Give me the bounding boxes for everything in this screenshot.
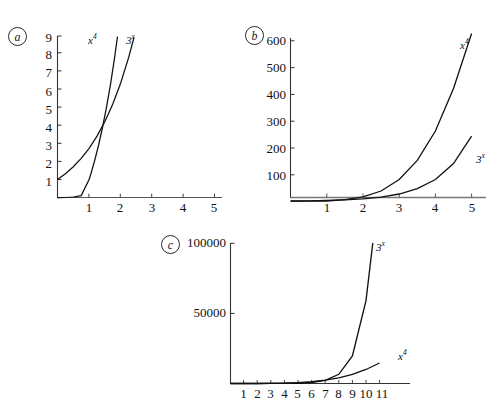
panel-c-label-x4: x4: [398, 349, 407, 362]
panel-c-xtick-1: 1: [236, 387, 251, 400]
panel-a-ytick-2: 2: [34, 157, 52, 170]
panel-a-ytick-9: 9: [34, 31, 52, 44]
panel-a-ytick-3: 3: [34, 139, 52, 152]
panel-b-ytick-600: 600: [244, 34, 286, 47]
panel-b-ytick-500: 500: [244, 61, 286, 74]
panel-b-ytick-400: 400: [244, 88, 286, 101]
panel-a-xtick-3: 3: [142, 201, 162, 214]
panel-c-xtick-6: 6: [304, 387, 319, 400]
panel-b-ytick-200: 200: [244, 142, 286, 155]
panel-a-xtick-1: 1: [79, 201, 99, 214]
panel-c-ytick-50000: 50000: [158, 306, 226, 319]
panel-c-curve-x4: [231, 363, 380, 384]
panel-c-label-3x-exp: x: [382, 239, 385, 248]
panel-b-label-3x-exp: x: [482, 151, 485, 160]
panel-b-xtick-2: 2: [353, 201, 373, 214]
panel-a-label-x4-exp: 4: [93, 32, 97, 41]
panel-b-label-3x: 3x: [476, 152, 485, 165]
panel-a-xtick-4: 4: [173, 201, 193, 214]
panel-c-xtick-8: 8: [331, 387, 346, 400]
panel-a-xtick-2: 2: [110, 201, 130, 214]
panel-c-curve-3x: [231, 243, 373, 384]
panel-b-xtick-1: 1: [317, 201, 337, 214]
panel-c-label-3x: 3x: [376, 240, 385, 253]
panel-a-label-3x-exp: x: [132, 32, 135, 41]
panel-c-ytick-100000: 100000: [158, 236, 226, 249]
panel-a: a: [0, 0, 240, 215]
panel-b-label-x4-exp: 4: [465, 37, 469, 46]
panel-b-xtick-5: 5: [462, 201, 482, 214]
panel-c-xtick-5: 5: [290, 387, 305, 400]
panel-c-xtick-11: 11: [372, 387, 392, 400]
panel-c: c: [140, 225, 504, 416]
panel-b: b: [240, 0, 504, 215]
panel-a-ytick-6: 6: [34, 85, 52, 98]
panel-b-curve-x4: [291, 34, 472, 202]
panel-c-label-x4-exp: 4: [403, 348, 407, 357]
panel-a-ytick-1: 1: [34, 175, 52, 188]
panel-a-label-x4: x4: [88, 33, 97, 46]
panel-b-xtick-4: 4: [425, 201, 445, 214]
panel-a-xtick-5: 5: [204, 201, 224, 214]
panel-a-ytick-8: 8: [34, 48, 52, 61]
panel-b-ytick-300: 300: [244, 115, 286, 128]
panel-c-xtick-3: 3: [263, 387, 278, 400]
panel-a-ytick-5: 5: [34, 103, 52, 116]
panel-b-ytick-100: 100: [244, 169, 286, 182]
panel-a-ytick-7: 7: [34, 66, 52, 79]
panel-b-label-x4: x4: [460, 38, 469, 51]
panel-a-ytick-4: 4: [34, 121, 52, 134]
panel-b-xtick-3: 3: [389, 201, 409, 214]
panel-a-label-3x: 3x: [126, 33, 135, 46]
